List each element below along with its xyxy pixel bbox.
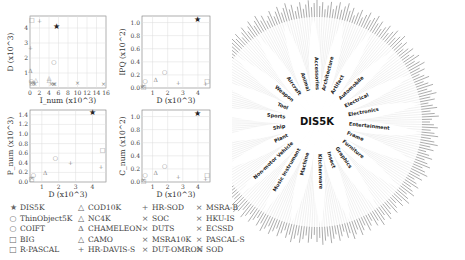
- svg-text:+: +: [28, 44, 33, 51]
- svg-text:□: □: [29, 16, 35, 23]
- svg-text:★: ★: [53, 22, 60, 31]
- svg-text:+: +: [98, 163, 103, 170]
- svg-text:×: ×: [29, 79, 34, 86]
- svg-text:2: 2: [24, 54, 28, 61]
- svg-text:0.8: 0.8: [130, 32, 140, 39]
- legend-item: □R-PASCAL: [6, 245, 72, 256]
- cross-icon: ×: [192, 245, 206, 256]
- svg-text:+: +: [37, 17, 42, 24]
- circle-icon: ○: [6, 224, 20, 235]
- svg-text:4: 4: [91, 183, 95, 190]
- legend-item: △CAMO: [74, 235, 142, 246]
- svg-text:0.8: 0.8: [18, 140, 28, 147]
- legend-column-1: ★DIS5K ○ThinObject5K ○COIFT □BIG □R-PASC…: [6, 203, 72, 256]
- svg-text:1: 1: [151, 183, 155, 190]
- svg-text:2: 2: [57, 183, 61, 190]
- scatter-top-right: 12340.00.20.40.60.81.0D (x10^3)IPQ (x10^…: [110, 0, 230, 100]
- svg-text:P_num (x10^3): P_num (x10^3): [6, 117, 15, 176]
- legend-item: △NC4K: [74, 214, 142, 225]
- svg-text:8: 8: [66, 89, 70, 96]
- triangle-icon: △: [74, 214, 88, 225]
- svg-text:0: 0: [28, 89, 32, 96]
- svg-text:0.6: 0.6: [130, 45, 140, 52]
- svg-text:Δ: Δ: [28, 67, 33, 74]
- svg-text:2: 2: [166, 183, 170, 190]
- svg-text:0.0: 0.0: [130, 178, 140, 185]
- svg-text:14: 14: [93, 89, 101, 96]
- svg-text:D (x10^3): D (x10^3): [48, 190, 87, 199]
- svg-text:□: □: [100, 146, 106, 153]
- svg-text:0.4: 0.4: [18, 159, 28, 166]
- cross-icon: ×: [192, 235, 206, 246]
- svg-text:Kitchenware: Kitchenware: [317, 154, 324, 190]
- svg-text:+: +: [176, 173, 181, 180]
- svg-text:D (x10^3): D (x10^3): [6, 32, 15, 71]
- plus-icon: +: [74, 245, 88, 256]
- legend-item: +HR-DAVIS-S: [74, 245, 142, 256]
- svg-text:12: 12: [83, 89, 91, 96]
- cross-icon: ×: [192, 203, 206, 214]
- legend-item: △COD10K: [74, 203, 142, 214]
- svg-text:2: 2: [38, 89, 42, 96]
- svg-text:×: ×: [75, 79, 80, 86]
- svg-text:Δ: Δ: [43, 169, 48, 176]
- svg-text:0.6: 0.6: [130, 139, 140, 146]
- svg-text:1.4: 1.4: [18, 111, 28, 118]
- svg-text:3: 3: [181, 89, 185, 96]
- svg-text:1.0: 1.0: [18, 130, 28, 137]
- svg-text:1.0: 1.0: [130, 19, 140, 26]
- svg-text:4: 4: [196, 183, 200, 190]
- plus-icon: +: [138, 203, 152, 214]
- svg-text:Δ: Δ: [153, 76, 158, 83]
- star-icon: ★: [6, 203, 20, 214]
- legend-item: ○COIFT: [6, 224, 72, 235]
- svg-text:○: ○: [162, 68, 167, 75]
- svg-text:4: 4: [24, 24, 28, 31]
- svg-text:0.2: 0.2: [18, 168, 28, 175]
- svg-text:+: +: [203, 175, 208, 182]
- scatter-bottom-left: 12340.00.20.40.60.81.01.21.4D (x10^3)P_n…: [0, 100, 110, 200]
- svg-text:×: ×: [139, 83, 144, 90]
- svg-text:★: ★: [194, 109, 201, 118]
- scatter-bottom-right: 12340.00.20.40.60.81.0D (x10^3)C_num (x1…: [110, 100, 230, 200]
- svg-text:0.0: 0.0: [18, 178, 28, 185]
- svg-text:+: +: [68, 159, 73, 166]
- cross-icon: ×: [192, 224, 206, 235]
- svg-text:0.2: 0.2: [130, 165, 140, 172]
- svg-text:×: ×: [29, 174, 34, 181]
- svg-text:○: ○: [51, 58, 56, 65]
- square-icon: □: [6, 235, 20, 246]
- svg-text:0.4: 0.4: [130, 58, 140, 65]
- cross-icon: ×: [138, 235, 152, 246]
- radial-category-tree: ArchitectureArtifactAutomobileElectrical…: [232, 0, 465, 260]
- svg-text:0.6: 0.6: [18, 149, 28, 156]
- svg-text:Δ: Δ: [153, 169, 158, 176]
- svg-text:4: 4: [47, 89, 51, 96]
- svg-text:Accessories: Accessories: [314, 57, 321, 90]
- svg-text:×: ×: [141, 176, 146, 183]
- svg-text:3: 3: [74, 183, 78, 190]
- legend-item: □BIG: [6, 235, 72, 246]
- svg-text:○: ○: [162, 162, 167, 169]
- svg-text:3: 3: [181, 183, 185, 190]
- legend-item: ΔCHAMELEON: [74, 224, 142, 235]
- svg-text:0.2: 0.2: [130, 71, 140, 78]
- cross-icon: ×: [138, 214, 152, 225]
- svg-text:○: ○: [53, 154, 58, 161]
- triangle-icon: △: [74, 203, 88, 214]
- svg-text:DIS5K: DIS5K: [300, 116, 335, 127]
- svg-text:0.4: 0.4: [130, 152, 140, 159]
- legend-item: ○ThinObject5K: [6, 214, 72, 225]
- svg-text:1.2: 1.2: [18, 120, 28, 127]
- svg-text:+: +: [203, 80, 208, 87]
- svg-text:★: ★: [89, 108, 96, 117]
- circle-icon: ○: [6, 214, 20, 225]
- svg-text:1: 1: [151, 89, 155, 96]
- cross-icon: ×: [138, 245, 152, 256]
- svg-text:D (x10^3): D (x10^3): [156, 190, 195, 199]
- triangle-icon: Δ: [74, 224, 88, 235]
- triangle-icon: △: [74, 235, 88, 246]
- svg-text:IPQ (x10^2): IPQ (x10^2): [118, 28, 127, 75]
- legend-item: ★DIS5K: [6, 203, 72, 214]
- svg-text:2: 2: [166, 89, 170, 96]
